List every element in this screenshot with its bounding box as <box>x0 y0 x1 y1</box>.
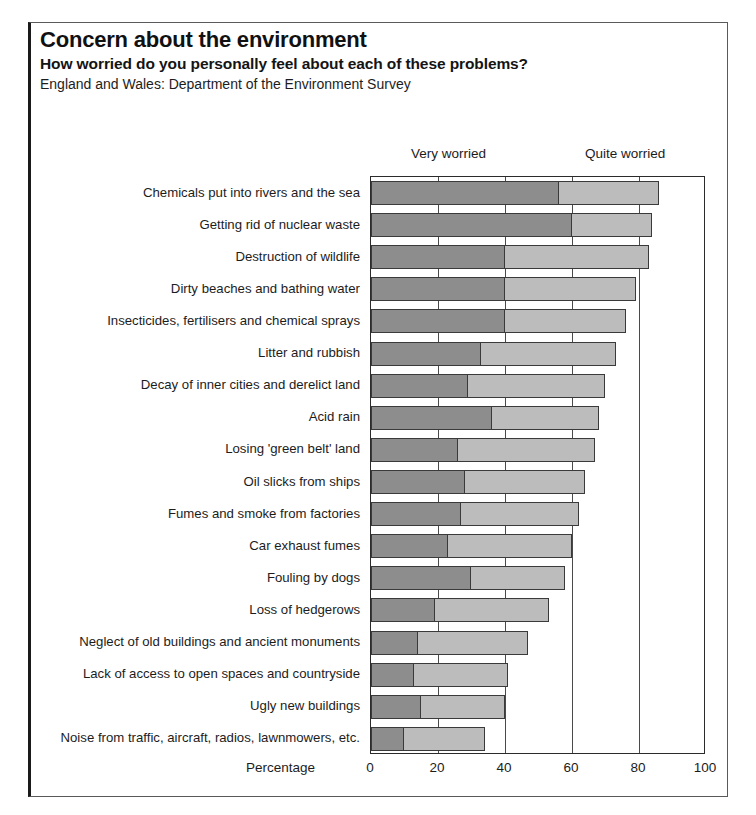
x-axis-title: Percentage <box>246 760 315 775</box>
bar-row[interactable] <box>371 241 704 267</box>
bar-row[interactable] <box>371 338 704 364</box>
bar-row[interactable] <box>371 434 704 460</box>
bar-segment-very-worried[interactable] <box>371 566 472 590</box>
chart-bars <box>371 177 704 753</box>
bar-segment-quite-worried[interactable] <box>504 309 626 333</box>
category-label: Destruction of wildlife <box>235 250 360 263</box>
category-label: Loss of hedgerows <box>249 603 360 616</box>
category-label: Acid rain <box>309 410 360 423</box>
bar-row[interactable] <box>371 530 704 556</box>
category-label: Ugly new buildings <box>250 699 360 712</box>
bar-segment-quite-worried[interactable] <box>504 245 649 269</box>
bar-segment-very-worried[interactable] <box>371 342 482 366</box>
bar-row[interactable] <box>371 723 704 749</box>
bar-segment-quite-worried[interactable] <box>413 663 508 687</box>
x-tick-0: 0 <box>350 760 390 775</box>
bar-segment-quite-worried[interactable] <box>571 213 653 237</box>
x-tick-100: 100 <box>685 760 725 775</box>
category-label: Fouling by dogs <box>267 571 360 584</box>
bar-segment-very-worried[interactable] <box>371 598 435 622</box>
bar-row[interactable] <box>371 627 704 653</box>
bar-row[interactable] <box>371 177 704 203</box>
category-label: Dirty beaches and bathing water <box>171 282 360 295</box>
bar-segment-quite-worried[interactable] <box>464 470 586 494</box>
bar-segment-quite-worried[interactable] <box>434 598 549 622</box>
bar-row[interactable] <box>371 659 704 685</box>
figure-header: Concern about the environment How worrie… <box>40 28 700 93</box>
category-label: Decay of inner cities and derelict land <box>141 378 360 391</box>
bar-segment-very-worried[interactable] <box>371 502 461 526</box>
bar-segment-quite-worried[interactable] <box>403 727 485 751</box>
category-label: Litter and rubbish <box>258 346 360 359</box>
category-label: Car exhaust fumes <box>249 539 360 552</box>
bar-segment-quite-worried[interactable] <box>460 502 578 526</box>
figure-page: Concern about the environment How worrie… <box>0 0 756 815</box>
x-tick-20: 20 <box>417 760 457 775</box>
category-label: Losing 'green belt' land <box>225 442 360 455</box>
category-label: Getting rid of nuclear waste <box>199 218 360 231</box>
bar-row[interactable] <box>371 370 704 396</box>
bar-row[interactable] <box>371 273 704 299</box>
bar-row[interactable] <box>371 305 704 331</box>
category-label: Oil slicks from ships <box>243 475 360 488</box>
category-label: Chemicals put into rivers and the sea <box>143 186 360 199</box>
bar-segment-very-worried[interactable] <box>371 438 458 462</box>
category-label: Neglect of old buildings and ancient mon… <box>79 635 360 648</box>
bar-segment-very-worried[interactable] <box>371 181 559 205</box>
bar-segment-very-worried[interactable] <box>371 406 492 430</box>
bar-segment-quite-worried[interactable] <box>417 631 529 655</box>
bar-segment-quite-worried[interactable] <box>457 438 595 462</box>
bar-segment-quite-worried[interactable] <box>491 406 599 430</box>
bar-row[interactable] <box>371 594 704 620</box>
bar-segment-quite-worried[interactable] <box>504 277 636 301</box>
bar-segment-very-worried[interactable] <box>371 309 505 333</box>
bar-segment-very-worried[interactable] <box>371 695 421 719</box>
bar-segment-quite-worried[interactable] <box>447 534 572 558</box>
chart-plot-area <box>370 176 705 754</box>
bar-segment-very-worried[interactable] <box>371 277 505 301</box>
category-label: Fumes and smoke from factories <box>168 507 360 520</box>
figure-subtitle: How worried do you personally feel about… <box>40 55 700 73</box>
category-label: Noise from traffic, aircraft, radios, la… <box>61 731 361 744</box>
legend-item-very-worried: Very worried <box>411 146 486 161</box>
bar-segment-quite-worried[interactable] <box>558 181 660 205</box>
category-label: Lack of access to open spaces and countr… <box>83 667 360 680</box>
bar-segment-very-worried[interactable] <box>371 374 468 398</box>
bar-segment-very-worried[interactable] <box>371 663 415 687</box>
bar-segment-very-worried[interactable] <box>371 727 405 751</box>
bar-segment-quite-worried[interactable] <box>467 374 605 398</box>
bar-row[interactable] <box>371 498 704 524</box>
bar-row[interactable] <box>371 691 704 717</box>
bar-segment-very-worried[interactable] <box>371 470 465 494</box>
category-label: Insecticides, fertilisers and chemical s… <box>107 314 360 327</box>
bar-segment-quite-worried[interactable] <box>470 566 565 590</box>
x-tick-40: 40 <box>484 760 524 775</box>
legend-item-quite-worried: Quite worried <box>585 146 665 161</box>
bar-row[interactable] <box>371 402 704 428</box>
x-tick-60: 60 <box>551 760 591 775</box>
bar-segment-very-worried[interactable] <box>371 213 572 237</box>
bar-segment-quite-worried[interactable] <box>480 342 615 366</box>
bar-segment-very-worried[interactable] <box>371 631 418 655</box>
figure-source: England and Wales: Department of the Env… <box>40 76 700 93</box>
category-axis-labels: Chemicals put into rivers and the seaGet… <box>36 176 366 754</box>
bar-row[interactable] <box>371 209 704 235</box>
x-tick-80: 80 <box>618 760 658 775</box>
page-title: Concern about the environment <box>40 28 700 53</box>
bar-segment-very-worried[interactable] <box>371 534 448 558</box>
bar-row[interactable] <box>371 466 704 492</box>
bar-row[interactable] <box>371 562 704 588</box>
bar-segment-quite-worried[interactable] <box>420 695 505 719</box>
bar-segment-very-worried[interactable] <box>371 245 505 269</box>
